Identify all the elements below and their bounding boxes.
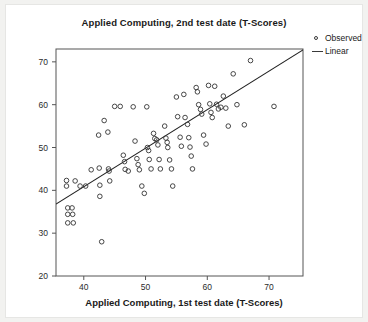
data-point [209, 110, 214, 115]
y-tick-label: 20 [39, 271, 49, 281]
data-point [198, 107, 203, 112]
line-marker-icon [311, 45, 325, 57]
data-point [158, 167, 163, 172]
data-point [162, 124, 167, 129]
data-point [107, 179, 112, 184]
scatter-plot: 40506070203040506070 [6, 5, 362, 317]
data-point [96, 133, 101, 138]
data-point [106, 130, 111, 135]
data-point [89, 167, 94, 172]
data-point [242, 123, 247, 128]
chart-legend: Observed Linear [311, 32, 367, 58]
data-point [98, 183, 103, 188]
data-point [165, 145, 170, 150]
data-point [178, 135, 183, 140]
data-point [204, 142, 209, 147]
data-point [78, 184, 83, 189]
data-point [224, 106, 229, 111]
regression-line [56, 50, 303, 204]
legend-label-observed: Observed [325, 33, 362, 43]
data-point [149, 167, 154, 172]
data-point [97, 166, 102, 171]
data-point [175, 114, 180, 119]
data-point [186, 135, 191, 140]
data-point [147, 157, 152, 162]
y-tick-label: 40 [39, 185, 49, 195]
data-point [65, 212, 70, 217]
data-point [70, 212, 75, 217]
data-point [118, 104, 123, 109]
data-point [121, 153, 126, 158]
data-point [179, 144, 184, 149]
data-point [201, 133, 206, 138]
data-point [189, 154, 194, 159]
data-point [235, 102, 240, 107]
y-tick-label: 30 [39, 228, 49, 238]
plot-frame [56, 49, 303, 276]
data-point [98, 194, 103, 199]
data-point [195, 90, 200, 95]
data-point [206, 83, 211, 88]
data-point [112, 104, 117, 109]
data-point [140, 184, 145, 189]
y-tick-label: 60 [39, 100, 49, 110]
data-point [212, 84, 217, 89]
chart-card: Applied Computing, 2nd test date (T-Scor… [6, 5, 362, 317]
data-point [144, 105, 149, 110]
y-tick-label: 50 [39, 143, 49, 153]
data-point [73, 179, 78, 184]
data-point [64, 178, 69, 183]
data-point [169, 167, 174, 172]
data-point [157, 157, 162, 162]
data-point [165, 140, 170, 145]
data-point [188, 145, 193, 150]
x-tick-label: 40 [79, 282, 89, 292]
data-point [99, 239, 104, 244]
open-circle-marker-icon [311, 32, 325, 44]
data-point [183, 115, 188, 120]
data-point [65, 221, 70, 226]
plot-area [56, 50, 303, 244]
data-point [174, 95, 179, 100]
data-point [167, 158, 172, 163]
data-point [272, 104, 277, 109]
data-point [137, 167, 142, 172]
data-point [133, 139, 138, 144]
data-point [135, 156, 140, 161]
data-point [196, 102, 201, 107]
data-point [71, 221, 76, 226]
data-point [136, 162, 141, 167]
y-tick-label: 70 [39, 57, 49, 67]
data-point [248, 58, 253, 63]
legend-item-linear[interactable]: Linear [311, 45, 367, 57]
x-axis-label: Applied Computing, 1st test date (T-Scor… [6, 297, 362, 308]
data-point [131, 105, 136, 110]
data-point [210, 115, 215, 120]
data-point [151, 131, 156, 136]
data-point [182, 92, 187, 97]
x-tick-label: 70 [264, 282, 274, 292]
data-point [156, 143, 161, 148]
data-point [221, 94, 226, 99]
data-point [142, 191, 147, 196]
data-point [226, 124, 231, 129]
legend-item-observed[interactable]: Observed [311, 32, 367, 44]
data-point [102, 118, 107, 123]
data-point [185, 122, 190, 127]
data-point [231, 72, 236, 77]
data-point [190, 167, 195, 172]
data-point [207, 102, 212, 107]
x-tick-label: 60 [203, 282, 213, 292]
data-point [64, 184, 69, 189]
legend-label-linear: Linear [325, 46, 349, 56]
x-tick-label: 50 [141, 282, 151, 292]
data-point [170, 184, 175, 189]
screenshot-root: Applied Computing, 2nd test date (T-Scor… [0, 0, 368, 322]
